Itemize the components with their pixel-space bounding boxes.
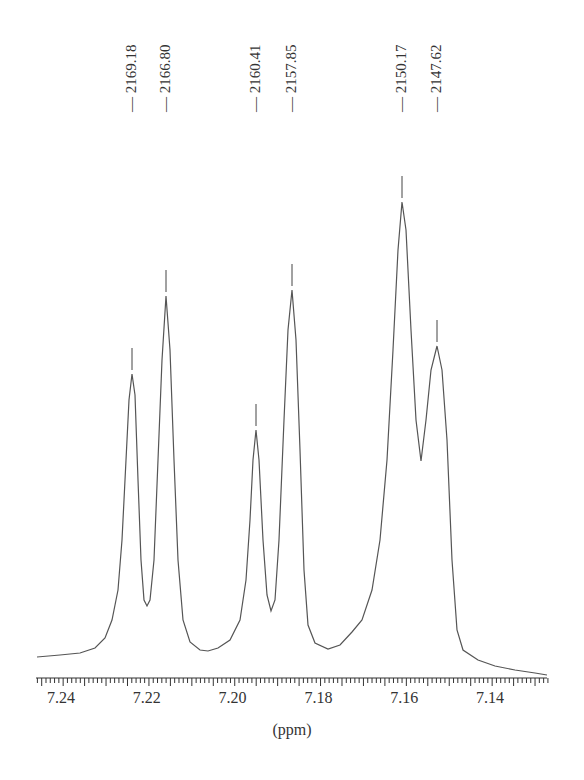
peak-label: — 2150.17 — [393, 45, 410, 113]
x-tick-label: 7.22 — [133, 689, 161, 707]
peak-label: — 2157.85 — [283, 45, 300, 113]
x-axis-label: (ppm) — [272, 721, 311, 739]
peak-label: — 2169.18 — [123, 45, 140, 113]
x-tick-label: 7.18 — [304, 689, 332, 707]
peak-label: — 2147.62 — [428, 45, 445, 113]
x-tick-label: 7.14 — [476, 689, 504, 707]
nmr-spectrum-plot — [0, 0, 584, 780]
peak-label: — 2166.80 — [157, 45, 174, 113]
x-tick-label: 7.20 — [219, 689, 247, 707]
peak-label: — 2160.41 — [247, 45, 264, 113]
x-tick-label: 7.24 — [47, 689, 75, 707]
x-tick-label: 7.16 — [390, 689, 418, 707]
x-axis — [36, 678, 548, 686]
